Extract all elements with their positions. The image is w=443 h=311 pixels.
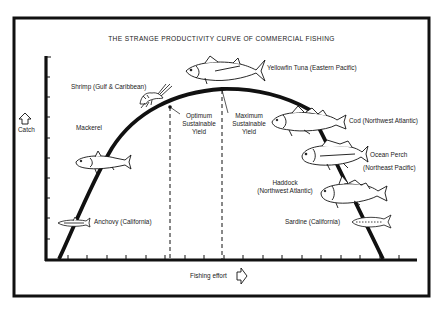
mackerel-icon [76, 151, 131, 174]
species-label-mackerel: Mackerel [76, 124, 102, 132]
sardine-icon [352, 215, 391, 228]
cod-icon [272, 106, 346, 136]
tuna-icon [186, 56, 265, 84]
species-label-cod: Cod (Northwest Atlantic) [349, 117, 418, 125]
ocean-perch-line-1: Ocean Perch [370, 151, 407, 159]
haddock-line-1: Haddock [249, 179, 321, 187]
maximum-line-3: Yield [222, 128, 276, 136]
species-label-haddock: Haddock (Northwest Atlantic) [249, 179, 321, 195]
species-label-anchovy: Anchovy (California) [94, 218, 152, 226]
optimum-yield-label: Optimum Sustainable Yield [174, 112, 224, 136]
optimum-line-2: Sustainable [174, 120, 224, 128]
optimum-line-3: Yield [174, 128, 224, 136]
maximum-point [220, 87, 224, 91]
catch-label: Catch [18, 126, 35, 134]
species-label-ocean-perch-region: (Northeast Pacific) [363, 164, 416, 172]
species-label-shrimp: Shrimp (Gulf & Caribbean) [71, 83, 146, 91]
optimum-line-1: Optimum [174, 112, 224, 120]
catch-arrow-icon [19, 113, 31, 124]
haddock-line-2: (Northwest Atlantic) [249, 187, 321, 195]
anchovy-icon [58, 217, 90, 227]
maximum-line-2: Sustainable [222, 120, 276, 128]
maximum-pointer [222, 90, 228, 113]
diagram-title: THE STRANGE PRODUCTIVITY CURVE OF COMMER… [0, 35, 443, 42]
maximum-line-1: Maximum [222, 112, 276, 120]
ocean-perch-icon [302, 140, 368, 170]
optimum-point [168, 105, 172, 109]
species-label-tuna: Yellowfin Tuna (Eastern Pacific) [267, 64, 357, 72]
maximum-yield-label: Maximum Sustainable Yield [222, 112, 276, 136]
effort-arrow-icon [237, 268, 247, 284]
species-label-sardine: Sardine (California) [285, 218, 340, 226]
fishing-effort-label: Fishing effort [190, 272, 227, 280]
species-label-ocean-perch: Ocean Perch [370, 151, 407, 159]
